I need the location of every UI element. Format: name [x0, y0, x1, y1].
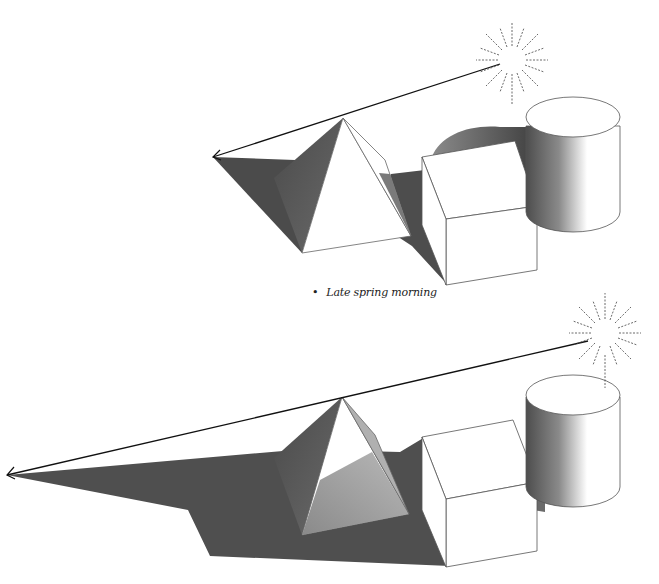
- caption-text: Late spring morning: [326, 286, 437, 299]
- cylinder-top-face: [526, 97, 620, 137]
- cylinder-bottom: [526, 375, 620, 507]
- caption-bullet: •: [312, 286, 318, 299]
- cube-top: [422, 141, 537, 285]
- cylinder-top-face: [526, 375, 620, 415]
- cube-front-face: [446, 206, 537, 285]
- scene-bottom: [7, 293, 641, 567]
- cylinder-body: [526, 126, 620, 232]
- sun-icon: [569, 293, 641, 365]
- cylinder-top: [526, 97, 620, 232]
- cube-bottom: [422, 420, 537, 567]
- sun-icon: [476, 22, 548, 104]
- scene-top: [213, 22, 620, 285]
- caption: •Late spring morning: [312, 286, 437, 299]
